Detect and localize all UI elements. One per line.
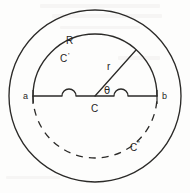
- center-label: C: [91, 103, 98, 114]
- inner-upper-contour-label: C: [60, 53, 67, 64]
- radius-label: r: [107, 61, 111, 72]
- inner-upper-arc: [33, 34, 157, 96]
- inner-upper-contour-prime: ': [68, 51, 70, 60]
- right-endpoint-label: b: [162, 91, 167, 101]
- contour-figure-container: R C ' C ” r θ C a b: [0, 0, 190, 193]
- region-label: R: [66, 35, 73, 46]
- diameter-path-with-indentations: [33, 89, 157, 96]
- contour-diagram-svg: R C ' C ” r θ C a b: [0, 0, 190, 193]
- angle-label: θ: [104, 85, 110, 96]
- lower-dashed-contour-prime: ”: [137, 139, 140, 148]
- left-endpoint-label: a: [23, 91, 28, 101]
- radius-line: [95, 50, 136, 96]
